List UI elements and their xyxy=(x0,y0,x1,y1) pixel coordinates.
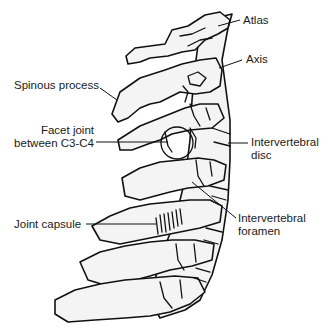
label-facet-joint-line2: between C3-C4 xyxy=(10,137,94,150)
label-axis: Axis xyxy=(246,53,268,66)
c7-vertebra xyxy=(55,276,205,322)
leader-spinous-process xyxy=(100,88,117,100)
label-joint-capsule: Joint capsule xyxy=(14,218,81,231)
label-facet-joint-line1: Facet joint xyxy=(10,124,94,137)
label-spinous-process: Spinous process xyxy=(14,79,99,92)
cervical-spine-diagram: Atlas Axis Spinous process Facet joint b… xyxy=(0,0,329,336)
label-intervertebral-disc-line1: Intervertebral xyxy=(251,136,319,149)
label-intervertebral-foramen-line2: foramen xyxy=(238,225,306,238)
label-intervertebral-foramen-line1: Intervertebral xyxy=(238,212,306,225)
label-intervertebral-disc: Intervertebral disc xyxy=(251,136,319,162)
label-atlas: Atlas xyxy=(243,14,269,27)
label-intervertebral-foramen: Intervertebral foramen xyxy=(238,212,306,238)
label-intervertebral-disc-line2: disc xyxy=(251,149,319,162)
spine-illustration xyxy=(0,0,329,336)
label-facet-joint: Facet joint between C3-C4 xyxy=(10,124,94,150)
